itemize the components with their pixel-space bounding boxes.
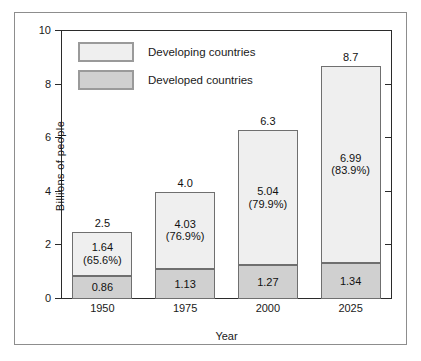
segment-percent-developing: (79.9%) xyxy=(249,198,288,211)
legend-swatch-developed xyxy=(78,70,134,90)
segment-percent-developing: (65.6%) xyxy=(83,254,122,267)
y-tick-mark-right xyxy=(385,298,392,299)
segment-percent-developing: (76.9%) xyxy=(166,230,205,243)
segment-percent-developing: (83.9%) xyxy=(331,164,370,177)
bar-segment-developed: 1.13 xyxy=(155,269,215,299)
bar-segment-developed: 1.34 xyxy=(321,263,381,299)
legend-swatch-developing xyxy=(78,42,134,62)
segment-value-developing: 4.03 xyxy=(166,218,205,231)
segment-value-developing: 1.64 xyxy=(83,241,122,254)
legend-item-developed: Developed countries xyxy=(78,70,255,90)
x-tick-label: 1975 xyxy=(173,302,197,314)
bar-1975: 4.04.03(76.9%)1.13 xyxy=(155,192,215,299)
bar-segment-developed: 1.27 xyxy=(238,265,298,299)
segment-label-developing: 4.03(76.9%) xyxy=(166,218,205,243)
segment-value-developed: 1.34 xyxy=(340,275,361,288)
bar-1950: 2.51.64(65.6%)0.86 xyxy=(72,232,132,299)
segment-value-developing: 6.99 xyxy=(331,152,370,165)
figure: 1086420 Billions of people 2.51.64(65.6%… xyxy=(0,0,421,361)
bar-2000: 6.35.04(79.9%)1.27 xyxy=(238,130,298,299)
x-tick-label: 2025 xyxy=(338,302,362,314)
x-tick-label: 2000 xyxy=(256,302,280,314)
y-tick-mark xyxy=(55,298,62,299)
legend-label-developing: Developing countries xyxy=(148,46,255,58)
legend-item-developing: Developing countries xyxy=(78,42,255,62)
bar-total-label: 2.5 xyxy=(72,217,132,232)
y-axis-title-wrap: Billions of people xyxy=(26,60,42,270)
bar-segment-developing: 6.99(83.9%) xyxy=(321,66,381,263)
segment-label-developing: 1.64(65.6%) xyxy=(83,241,122,266)
bar-total-label: 6.3 xyxy=(238,115,298,130)
bar-segment-developing: 4.03(76.9%) xyxy=(155,192,215,269)
plot-right-border xyxy=(391,30,392,299)
segment-value-developed: 1.27 xyxy=(257,276,278,289)
legend: Developing countries Developed countries xyxy=(78,42,255,98)
y-tick-label: 10 xyxy=(0,24,51,36)
segment-value-developed: 0.86 xyxy=(92,281,113,294)
bar-segment-developing: 5.04(79.9%) xyxy=(238,130,298,265)
segment-label-developing: 6.99(83.9%) xyxy=(331,152,370,177)
bar-segment-developing: 1.64(65.6%) xyxy=(72,232,132,276)
segment-label-developing: 5.04(79.9%) xyxy=(249,185,288,210)
bar-segment-developed: 0.86 xyxy=(72,276,132,299)
segment-value-developing: 5.04 xyxy=(249,185,288,198)
x-tick-label: 1950 xyxy=(90,302,114,314)
bar-total-label: 4.0 xyxy=(155,177,215,192)
y-tick-label: 0 xyxy=(0,292,51,304)
bar-2025: 8.76.99(83.9%)1.34 xyxy=(321,66,381,299)
x-axis-title: Year xyxy=(61,330,392,342)
bar-total-label: 8.7 xyxy=(321,51,381,66)
legend-label-developed: Developed countries xyxy=(148,74,253,86)
segment-value-developed: 1.13 xyxy=(174,278,195,291)
